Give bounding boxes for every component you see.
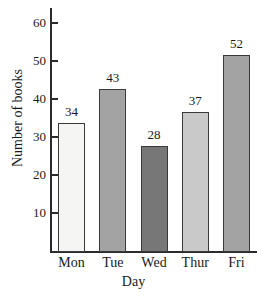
y-axis-tick-label-text: 50 [20,54,46,67]
y-axis-tick-label-text: 30 [20,130,46,143]
y-axis-tick-label-text: 60 [20,16,46,29]
x-axis-title: Day [0,274,267,290]
y-axis-tick-label-text: 40 [20,92,46,105]
x-tick-label-fri: Fri [214,255,258,271]
bar-value-wed: 28 [138,128,170,141]
y-axis-tick-label: 20 [14,168,46,181]
bar-value-thur: 37 [179,94,211,107]
y-axis-tick-label: 30 [14,130,46,143]
y-axis-tick-label-text: 10 [20,206,46,219]
y-axis-tick-label-text: 20 [20,168,46,181]
bar-wed [141,146,168,252]
bar-value-tue: 43 [97,71,129,84]
y-axis-tick-label: 60 [14,16,46,29]
bar-chart: Number of books 102030405060 3443283752 … [0,0,267,299]
bar-value-mon: 34 [56,105,88,118]
x-tick-label-tue: Tue [91,255,135,271]
bar-thur [182,112,209,252]
bar-value-fri: 52 [220,37,252,50]
bar-fri [223,55,250,252]
x-tick-label-mon: Mon [50,255,94,271]
x-tick-label-wed: Wed [132,255,176,271]
bar-tue [99,89,126,252]
x-tick-label-thur: Thur [173,255,217,271]
y-axis-tick-label: 50 [14,54,46,67]
y-axis-tick-label: 10 [14,206,46,219]
y-axis-tick-label: 40 [14,92,46,105]
bar-mon [58,123,85,252]
